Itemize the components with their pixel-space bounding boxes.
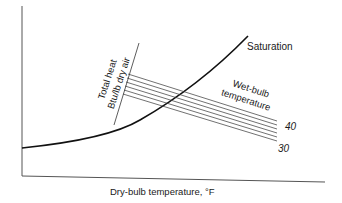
x-axis <box>22 176 325 182</box>
saturation-label: Saturation <box>247 41 293 52</box>
x-axis-label: Dry-bulb temperature, °F <box>110 186 215 197</box>
psychrometric-diagram: Saturation Total heat Btu/lb dry air Wet… <box>0 0 342 203</box>
wet-bulb-tick-30: 30 <box>278 143 290 154</box>
wet-bulb-tick-40: 40 <box>285 121 297 132</box>
saturation-curve <box>22 36 248 148</box>
